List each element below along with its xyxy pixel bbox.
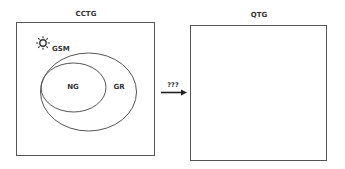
left-panel-title: CCTG xyxy=(76,10,97,18)
ng-label: NG xyxy=(67,83,79,91)
arrow-label: ??? xyxy=(167,81,179,89)
gr-ellipse xyxy=(41,53,137,131)
sun-icon xyxy=(36,36,50,50)
diagram-canvas: CCTG GSM NG GR ??? QTG xyxy=(0,0,345,169)
right-panel-title: QTG xyxy=(251,11,268,19)
right-panel: QTG xyxy=(191,11,327,161)
arrow-head-icon xyxy=(181,90,187,96)
right-panel-box xyxy=(191,26,327,161)
transition-arrow: ??? xyxy=(161,81,187,96)
gsm-label: GSM xyxy=(52,45,70,53)
gr-label: GR xyxy=(113,83,125,91)
left-panel: CCTG GSM NG GR xyxy=(17,10,155,156)
